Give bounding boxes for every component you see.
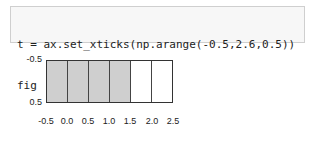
- plot-area: [46, 60, 173, 103]
- x-tick-label: 0.5: [82, 116, 95, 126]
- heatmap-cell: [47, 61, 68, 102]
- code-line-1: t = ax.set_xticks(np.arange(-0.5,2.6,0.5…: [17, 38, 298, 52]
- x-tick-label: 2.5: [167, 116, 180, 126]
- y-tick-label: -0.5: [12, 54, 42, 64]
- heatmap-cell: [131, 61, 152, 102]
- x-tick-label: 0.0: [61, 116, 74, 126]
- x-tick-label: -0.5: [38, 116, 54, 126]
- x-tick-label: 2.0: [146, 116, 159, 126]
- heatmap-cell: [152, 61, 172, 102]
- x-tick-label: 1.5: [124, 116, 137, 126]
- heatmap-cell: [89, 61, 110, 102]
- heatmap-cell: [110, 61, 131, 102]
- heatmap-cell: [68, 61, 89, 102]
- y-tick-label: 0.5: [12, 97, 42, 107]
- x-tick-label: 1.0: [103, 116, 116, 126]
- code-cell[interactable]: t = ax.set_xticks(np.arange(-0.5,2.6,0.5…: [10, 6, 305, 43]
